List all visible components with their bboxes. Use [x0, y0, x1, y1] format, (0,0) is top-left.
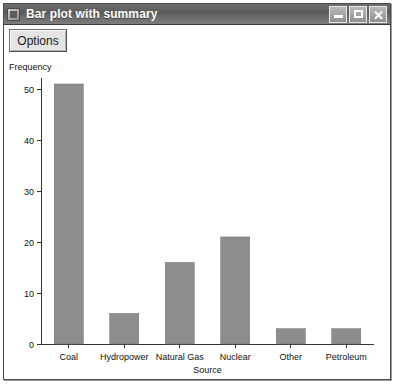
- x-axis-tick-label: Coal: [59, 352, 78, 362]
- title-bar[interactable]: Bar plot with summary ✕: [4, 4, 390, 25]
- x-axis-tick-label: Hydropower: [100, 352, 149, 362]
- minimize-icon: [334, 15, 343, 18]
- application-window: Bar plot with summary ✕ Options Frequenc…: [3, 3, 391, 380]
- y-axis-tick-label: 0: [29, 340, 34, 350]
- maximize-button[interactable]: [349, 6, 367, 23]
- y-axis-tick-label: 50: [24, 85, 34, 95]
- x-axis-tick-label: Natural Gas: [156, 352, 205, 362]
- y-axis-tick-label: 30: [24, 187, 34, 197]
- options-button[interactable]: Options: [9, 29, 67, 52]
- bar: [221, 237, 250, 344]
- y-axis-label: Frequency: [9, 62, 52, 72]
- window-title: Bar plot with summary: [26, 7, 329, 21]
- toolbar: Options: [4, 25, 390, 58]
- x-axis-label: Source: [193, 365, 222, 375]
- bar: [276, 329, 305, 344]
- chart-canvas: Frequency01020304050CoalHydropowerNatura…: [4, 58, 390, 379]
- bar: [165, 262, 194, 344]
- close-icon: ✕: [370, 9, 386, 22]
- application-icon: [7, 8, 20, 21]
- bar: [332, 329, 361, 344]
- bar: [110, 313, 139, 344]
- x-axis-tick-label: Petroleum: [326, 352, 367, 362]
- y-axis-tick-label: 10: [24, 289, 34, 299]
- bar: [54, 84, 83, 344]
- bar-chart: Frequency01020304050CoalHydropowerNatura…: [4, 58, 390, 379]
- y-axis-tick-label: 40: [24, 136, 34, 146]
- close-button[interactable]: ✕: [369, 6, 387, 23]
- y-axis-tick-label: 20: [24, 238, 34, 248]
- x-axis-tick-label: Other: [279, 352, 302, 362]
- maximize-icon: [354, 10, 363, 18]
- window-controls: ✕: [329, 6, 387, 23]
- x-axis-tick-label: Nuclear: [220, 352, 251, 362]
- minimize-button[interactable]: [329, 6, 347, 23]
